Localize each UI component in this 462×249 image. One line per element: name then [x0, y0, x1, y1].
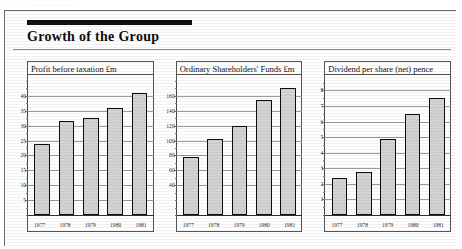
y-axis-minor-tick — [26, 215, 28, 216]
chart-title-profit: Profit before taxation £m — [27, 61, 154, 75]
x-axis-label: 1977 — [178, 222, 198, 228]
charts-container: Profit before taxation £m 40353025201510… — [13, 61, 453, 241]
x-axis-label: 1977 — [30, 222, 50, 228]
bar-1980 — [405, 114, 421, 215]
bar-1979 — [380, 139, 396, 215]
x-axis-dividend: 19771978197919801981 — [324, 218, 451, 232]
bar-group — [177, 81, 303, 215]
bar-1977 — [332, 178, 348, 215]
bar-1979 — [232, 126, 248, 215]
x-axis-label: 1977 — [327, 222, 347, 228]
x-axis-label: 1981 — [131, 222, 151, 228]
plot-area-shareholders-funds: 160140120100806040 — [176, 81, 303, 216]
x-axis-label: 1980 — [106, 222, 126, 228]
bar-group — [28, 81, 154, 215]
bar-1981 — [280, 88, 296, 215]
x-axis-profit: 19771978197919801981 — [27, 218, 154, 232]
chart-title-dividend: Dividend per share (net) pence — [324, 61, 451, 75]
x-axis-label: 1979 — [80, 222, 100, 228]
x-axis-shareholders-funds: 19771978197919801981 — [176, 218, 303, 232]
plot-area-dividend: 87654321 — [324, 81, 451, 216]
bar-group — [325, 81, 451, 215]
y-axis-tick-label: 100 — [166, 138, 174, 144]
page-title: Growth of the Group — [27, 29, 159, 45]
report-page: Growth of the Group Profit before taxati… — [4, 10, 456, 246]
bar-1977 — [34, 144, 50, 215]
chart-title-shareholders-funds: Ordinary Shareholders' Funds £m — [176, 61, 303, 75]
x-axis-label: 1978 — [55, 222, 75, 228]
x-axis-label: 1979 — [229, 222, 249, 228]
x-axis-label: 1981 — [428, 222, 448, 228]
chart-panel-dividend: Dividend per share (net) pence 87654321 … — [310, 61, 453, 241]
bar-1980 — [107, 108, 123, 215]
bar-1981 — [132, 93, 148, 215]
y-axis-tick-label: 160 — [166, 93, 174, 99]
plot-area-profit: 403530252015105 — [27, 81, 154, 216]
bar-1977 — [183, 157, 199, 215]
chart-panel-profit: Profit before taxation £m 40353025201510… — [13, 61, 156, 241]
x-axis-label: 1979 — [378, 222, 398, 228]
bar-1981 — [429, 98, 445, 215]
y-axis-minor-tick — [175, 215, 177, 216]
x-axis-label: 1980 — [403, 222, 423, 228]
heading-divider — [13, 49, 451, 50]
bar-1978 — [59, 121, 75, 215]
x-axis-label: 1978 — [352, 222, 372, 228]
heading-rule-bar — [27, 20, 192, 25]
bar-1978 — [356, 172, 372, 215]
scan-artifact-text: .. .... .. ................ . — [0, 0, 462, 9]
bar-1978 — [207, 139, 223, 215]
y-axis-tick-label: 140 — [166, 108, 174, 114]
bar-1980 — [256, 100, 272, 215]
bar-1979 — [83, 118, 99, 215]
x-axis-label: 1980 — [254, 222, 274, 228]
chart-panel-shareholders-funds: Ordinary Shareholders' Funds £m 16014012… — [162, 61, 305, 241]
x-axis-label: 1981 — [280, 222, 300, 228]
x-axis-label: 1978 — [204, 222, 224, 228]
y-axis-minor-tick — [323, 215, 325, 216]
y-axis-tick-label: 120 — [166, 123, 174, 129]
